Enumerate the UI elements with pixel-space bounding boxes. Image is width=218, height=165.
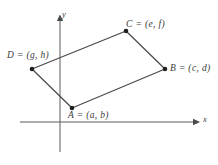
y-axis-label: y <box>62 10 66 19</box>
vertex-dot-b <box>163 67 168 72</box>
x-axis-label: x <box>203 115 207 124</box>
point-label-c: C = (e, f) <box>126 20 165 30</box>
point-label-d: D = (g, h) <box>7 51 49 61</box>
figure-canvas <box>0 0 218 165</box>
point-label-b: B = (c, d) <box>170 64 211 74</box>
geometry-figure: C = (e, f) D = (g, h) B = (c, d) A = (a,… <box>0 0 218 165</box>
parallelogram-shape <box>32 31 165 108</box>
vertex-dot-d <box>30 67 35 72</box>
x-axis-arrow-icon <box>193 119 200 125</box>
point-label-a: A = (a, b) <box>68 111 109 121</box>
